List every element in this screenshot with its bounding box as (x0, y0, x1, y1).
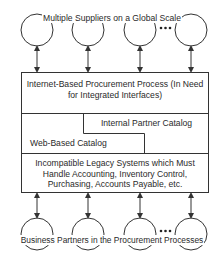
bottom-arrows (37, 195, 191, 216)
top-title-text: Multiple Suppliers on a Global Scale (42, 13, 182, 23)
top-arrows (37, 48, 191, 70)
diagram-canvas (0, 0, 224, 263)
bottom-title: Business Partners in the Procurement Pro… (0, 235, 224, 246)
ellipsis-dots (160, 27, 172, 233)
internet-procurement-layer: Internet-Based Procurement Process (In N… (21, 79, 209, 100)
internal-partner-catalog-layer: Internal Partner Catalog (84, 118, 209, 129)
bottom-title-text: Business Partners in the Procurement Pro… (20, 235, 204, 245)
legacy-systems-layer: Incompatible Legacy Systems which Must H… (21, 158, 209, 190)
web-based-catalog-layer: Web-Based Catalog (24, 138, 150, 149)
top-title: Multiple Suppliers on a Global Scale (0, 13, 224, 24)
